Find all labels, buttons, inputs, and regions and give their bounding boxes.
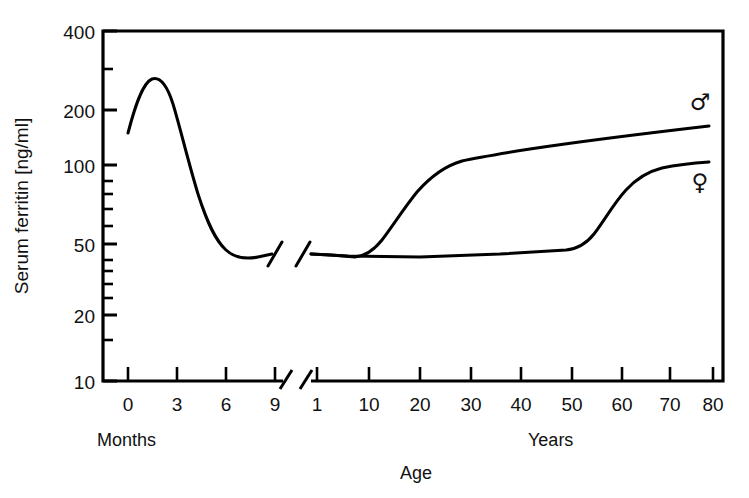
x-label-month-6: 6 <box>221 394 232 415</box>
x-segment-caption-years: Years <box>528 430 573 450</box>
male-symbol-icon: ♂ <box>690 89 711 115</box>
x-axis-labels-years: 1 10 20 30 40 50 60 70 80 <box>312 394 724 415</box>
x-label-year-80: 80 <box>702 394 723 415</box>
serum-ferritin-chart: 400 200 100 50 20 10 Serum ferritin [ng/… <box>0 0 749 498</box>
x-label-month-3: 3 <box>172 394 183 415</box>
x-label-year-1: 1 <box>312 394 323 415</box>
y-label-200: 200 <box>63 101 95 122</box>
x-label-month-9: 9 <box>270 394 281 415</box>
x-segment-caption-months: Months <box>97 430 156 450</box>
x-label-year-60: 60 <box>611 394 632 415</box>
x-label-month-0: 0 <box>123 394 134 415</box>
x-label-year-10: 10 <box>358 394 379 415</box>
x-label-year-50: 50 <box>561 394 582 415</box>
female-symbol-icon: ♀ <box>692 169 709 195</box>
y-axis-title: Serum ferritin [ng/ml] <box>11 118 32 294</box>
x-label-year-70: 70 <box>659 394 680 415</box>
y-label-10: 10 <box>74 372 95 393</box>
x-label-year-30: 30 <box>460 394 481 415</box>
x-label-year-20: 20 <box>409 394 430 415</box>
chart-svg: 400 200 100 50 20 10 Serum ferritin [ng/… <box>0 0 749 498</box>
x-label-year-40: 40 <box>510 394 531 415</box>
x-axis-title: Age <box>400 463 432 483</box>
y-label-100: 100 <box>63 156 95 177</box>
y-label-400: 400 <box>63 22 95 43</box>
y-label-50: 50 <box>74 235 95 256</box>
y-label-20: 20 <box>74 306 95 327</box>
